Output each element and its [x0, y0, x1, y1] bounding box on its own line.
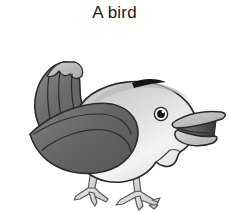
claw-front-2 [149, 205, 158, 209]
tail-tip [47, 62, 83, 78]
page-title: A bird [0, 3, 229, 23]
eye-group [154, 107, 167, 120]
eye-highlight [162, 110, 165, 113]
bird-illustration [0, 24, 229, 212]
bird-drawing [0, 24, 229, 212]
page-root: A bird [0, 0, 229, 212]
